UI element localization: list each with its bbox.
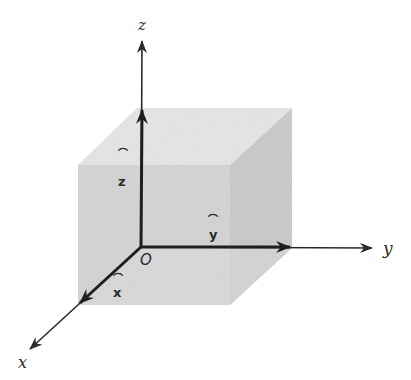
y-hat-letter: y bbox=[209, 227, 218, 242]
hat-glyph: ⌒ bbox=[207, 213, 218, 225]
x-hat-letter: x bbox=[113, 285, 122, 300]
z-axis-label: z bbox=[137, 16, 146, 34]
z-axis bbox=[141, 41, 142, 247]
hat-glyph: ⌒ bbox=[112, 272, 123, 284]
coordinate-cube-diagram: z y x O ⌒ z ⌒ y ⌒ x bbox=[0, 0, 411, 380]
y-axis bbox=[141, 247, 372, 248]
hat-glyph: ⌒ bbox=[117, 147, 128, 159]
z-unit-vector bbox=[141, 110, 142, 247]
x-hat-label: ⌒ x bbox=[112, 272, 123, 300]
x-axis-label: x bbox=[18, 353, 27, 372]
z-hat-letter: z bbox=[118, 174, 126, 189]
y-hat-label: ⌒ y bbox=[207, 213, 218, 242]
origin-label: O bbox=[140, 251, 152, 269]
y-axis-label: y bbox=[382, 238, 393, 258]
